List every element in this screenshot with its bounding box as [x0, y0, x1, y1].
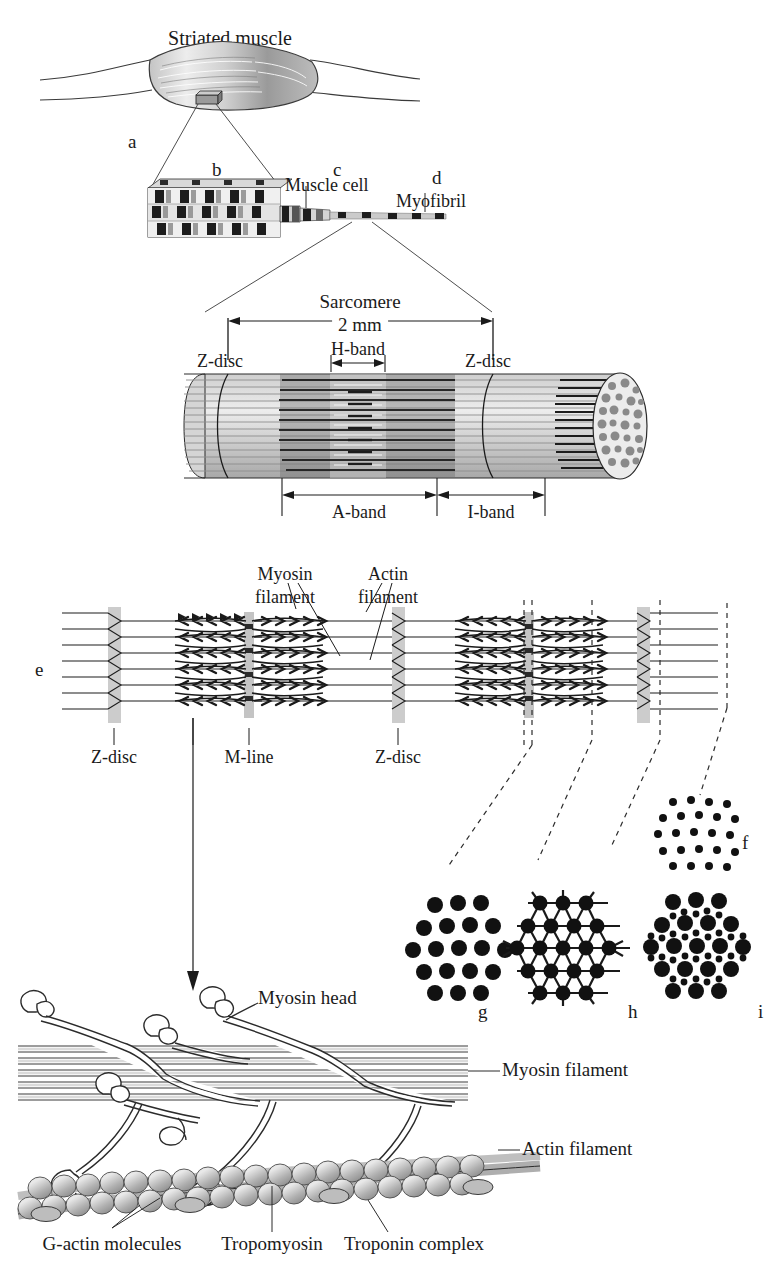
myosin-filament-right-label: Myosin filament — [502, 1060, 628, 1079]
tropomyosin-label: Tropomyosin — [221, 1234, 323, 1253]
g-actin-label: G-actin molecules — [43, 1234, 182, 1253]
troponin-label: Troponin complex — [344, 1234, 484, 1253]
figure-striated-muscle: Striated muscle — [0, 0, 779, 1279]
myosin-head-label: Myosin head — [258, 988, 357, 1007]
actin-filament-right-label: Actin filament — [522, 1139, 632, 1158]
molecular-detail — [0, 0, 779, 1279]
